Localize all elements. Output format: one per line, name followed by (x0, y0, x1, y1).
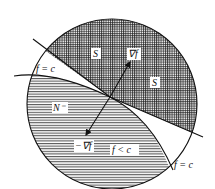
label-neg-grad: −∇f (75, 140, 93, 151)
label-f-eq-c-left: f = c (36, 63, 56, 74)
label-grad: ∇f (128, 48, 139, 59)
label-n-minus: N⁻ (52, 102, 66, 113)
diagram-canvas: S ∇f S f = c N⁻ −∇f f < c f = c (0, 0, 215, 189)
label-f-less-c: f < c (112, 144, 132, 155)
label-s-right: S (152, 77, 157, 88)
label-s-top: S (93, 48, 98, 59)
label-f-eq-c-bottom: f = c (174, 159, 194, 170)
